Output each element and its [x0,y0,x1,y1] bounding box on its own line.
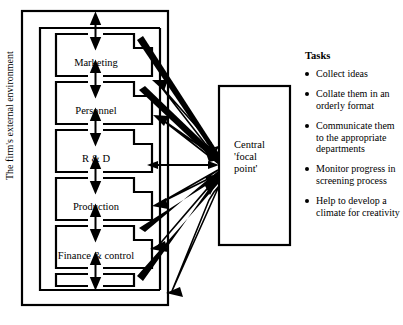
cell-right-5 [103,274,134,286]
focal-line-3: point' [234,163,265,175]
tasks-list: Collect ideas Collate them in an orderly… [305,68,400,218]
task-item-3: Monitor progress in screening process [305,163,400,186]
task-item-1: Collate them in an orderly format [305,88,400,111]
department-label-marketing: Marketing [74,57,118,68]
vertical-interdepartment-arrows [91,14,99,288]
cell-right-2 [103,130,152,172]
task-item-2: Communicate them to the appropriate depa… [305,120,400,154]
task-text-4: Help to develop a climate for creativity [316,195,400,217]
bullet-icon [305,199,309,203]
cell-left-0 [56,34,88,76]
department-cells-right [103,34,152,286]
bullet-icon [305,92,309,96]
tasks-title: Tasks [305,50,400,61]
task-item-4: Help to develop a climate for creativity [305,195,400,218]
bullet-icon [305,72,309,76]
arrow-pair-rnd [147,161,219,169]
focal-line-2: 'focal [234,151,265,163]
figure-root: The firm's external environment Marketin… [0,0,403,325]
task-item-0: Collect ideas [305,68,400,79]
vertical-arrow-0 [91,14,99,48]
department-label-rnd: R & D [82,153,110,164]
cell-left-1 [56,82,88,124]
focal-line-1: Central [234,139,265,151]
cell-right-3 [103,178,152,220]
task-text-1: Collate them in an orderly format [316,88,390,110]
task-text-0: Collect ideas [316,68,368,79]
task-text-3: Monitor progress in screening process [316,163,395,185]
department-label-personnel: Personnel [75,105,116,116]
central-focal-point-label: Central 'focal point' [234,139,265,175]
department-label-production: Production [73,201,119,212]
tasks-panel: Tasks Collect ideas Collate them in an o… [305,50,400,227]
bullet-icon [305,167,309,171]
external-environment-label: The firm's external environment [4,51,15,180]
arrow-in-extra-lower [166,186,219,297]
bullet-icon [305,124,309,128]
cell-right-4 [103,226,152,268]
cell-left-2 [56,130,88,172]
cell-left-5 [56,274,88,286]
cell-left-3 [56,178,88,220]
cell-left-4 [56,226,88,268]
task-text-2: Communicate them to the appropriate depa… [316,120,395,154]
department-label-finance: Finance & control [58,250,134,261]
